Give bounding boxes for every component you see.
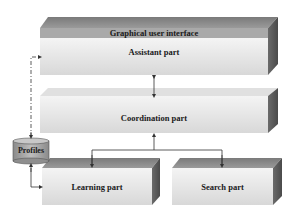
profiles-assistant-dashed-arrow: [31, 57, 40, 137]
profiles-learning-arrow: [31, 165, 41, 187]
gui-assistant-block: [40, 17, 278, 75]
coordination-top-face: [40, 88, 278, 96]
gui-label: Graphical user interface: [40, 28, 268, 38]
search-label: Search part: [172, 182, 273, 192]
coordination-block: [40, 88, 278, 133]
profiles-label: Profiles: [13, 146, 49, 155]
learning-label: Learning part: [42, 182, 152, 192]
coordination-label: Coordination part: [40, 113, 268, 123]
gui-top-face: [40, 17, 278, 28]
assistant-label: Assistant part: [40, 47, 268, 57]
learning-top-face: [42, 158, 160, 168]
search-top-face: [172, 158, 282, 168]
